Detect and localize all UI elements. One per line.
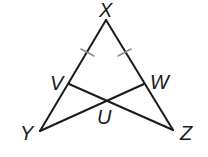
label-u: U — [97, 106, 112, 128]
label-x: X — [98, 0, 113, 21]
label-v: V — [50, 72, 65, 94]
label-z: Z — [179, 122, 193, 144]
label-w: W — [150, 71, 171, 93]
label-y: Y — [20, 122, 35, 144]
geometry-diagram: X V W U Y Z — [0, 0, 208, 157]
